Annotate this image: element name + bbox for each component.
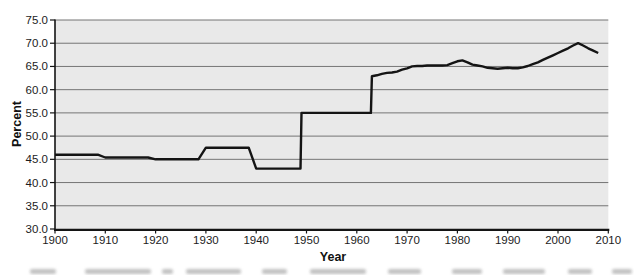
- y-tick-label: 45.0: [26, 153, 48, 165]
- y-tick-label: 60.0: [26, 84, 48, 96]
- x-tick-label: 1970: [394, 234, 420, 246]
- x-tick-label: 2010: [596, 234, 622, 246]
- x-tick-label: 1990: [495, 234, 521, 246]
- x-axis-title: Year: [320, 250, 346, 264]
- y-tick-label: 70.0: [26, 37, 48, 49]
- y-tick-label: 35.0: [26, 200, 48, 212]
- x-tick-label: 1930: [193, 234, 219, 246]
- plot-area: [55, 20, 608, 229]
- x-tick-label: 1940: [243, 234, 269, 246]
- x-tick-label: 1950: [294, 234, 320, 246]
- x-tick-label: 1910: [93, 234, 119, 246]
- y-tick-label: 40.0: [26, 177, 48, 189]
- y-axis-title: Percent: [10, 101, 24, 147]
- x-tick-label: 1900: [42, 234, 68, 246]
- cutoff-caption-fragment: [0, 268, 634, 275]
- x-tick-label: 1980: [445, 234, 471, 246]
- x-tick-label: 1960: [344, 234, 370, 246]
- percent-by-year-line-chart: 30.035.040.045.050.055.060.065.070.075.0…: [0, 0, 634, 275]
- y-tick-label: 65.0: [26, 60, 48, 72]
- y-tick-label: 55.0: [26, 107, 48, 119]
- chart-figure: 30.035.040.045.050.055.060.065.070.075.0…: [0, 0, 634, 275]
- y-tick-label: 50.0: [26, 130, 48, 142]
- x-tick-label: 1920: [143, 234, 169, 246]
- y-tick-label: 75.0: [26, 14, 48, 26]
- x-tick-label: 2000: [545, 234, 571, 246]
